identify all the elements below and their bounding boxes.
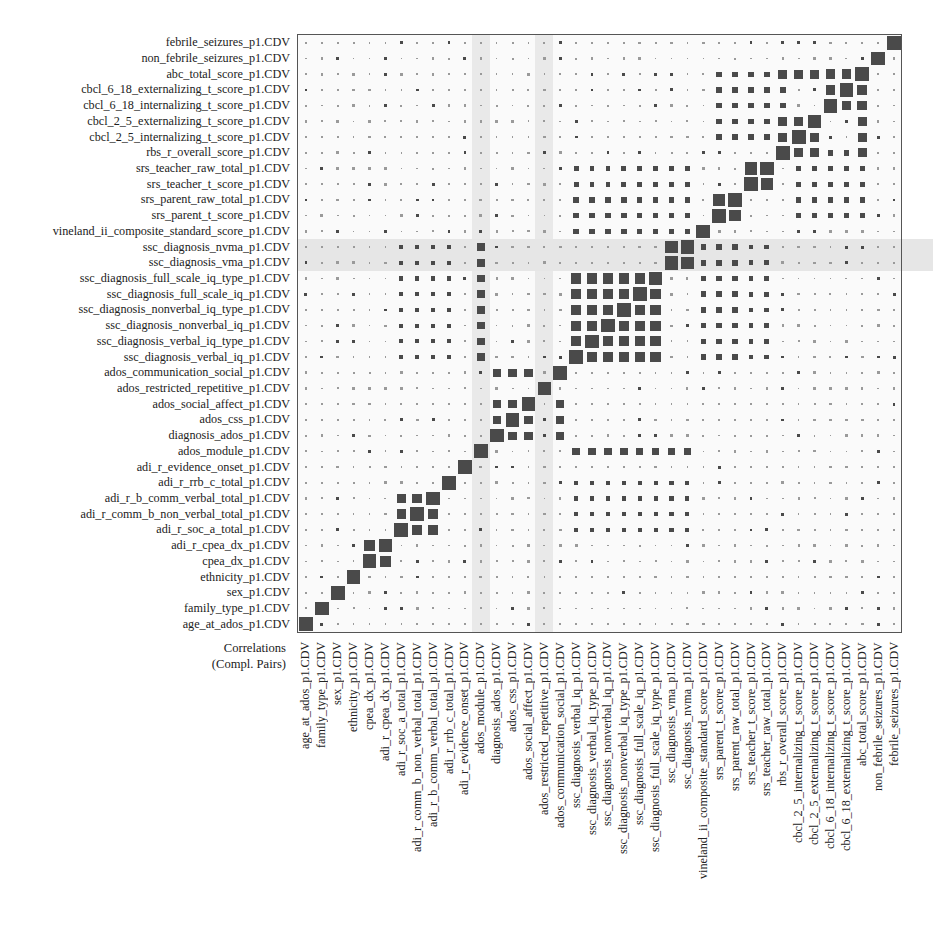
correlation-cell	[654, 419, 656, 421]
row-label: age_at_ados_p1.CDV	[183, 616, 290, 633]
correlation-cell	[544, 278, 546, 280]
correlation-cell	[477, 243, 485, 251]
correlation-cell	[829, 607, 831, 609]
correlation-cell	[559, 167, 562, 170]
row-label: adi_r_comm_b_non_verbal_total_p1.CDV	[80, 506, 290, 523]
correlation-cell	[732, 103, 737, 108]
correlation-cell	[511, 356, 513, 358]
correlation-cell	[432, 73, 434, 75]
correlation-cell	[432, 560, 434, 562]
correlation-cell	[685, 496, 689, 500]
correlation-cell	[670, 136, 672, 138]
correlation-cell	[601, 319, 615, 333]
correlation-cell	[669, 229, 674, 234]
correlation-cell	[574, 481, 578, 485]
correlation-cell	[639, 592, 641, 594]
correlation-cell	[654, 262, 657, 265]
correlation-cell	[716, 291, 721, 296]
correlation-cell	[829, 136, 832, 139]
correlation-cell	[826, 69, 836, 79]
correlation-cell	[798, 419, 800, 421]
column-label: srs_parent_t_score_p1.CDV	[711, 642, 728, 928]
correlation-cell	[750, 215, 752, 217]
correlation-cell	[829, 57, 831, 59]
correlation-cell	[493, 369, 501, 377]
correlation-cell	[464, 215, 466, 217]
correlation-cell	[639, 73, 641, 75]
correlation-cell	[305, 482, 307, 484]
correlation-cell	[543, 89, 545, 91]
correlation-cell	[432, 482, 434, 484]
correlation-cell	[845, 387, 848, 390]
correlation-cell	[480, 120, 482, 122]
correlation-cell	[511, 246, 513, 248]
correlation-cell	[477, 353, 485, 361]
correlation-cell	[464, 89, 466, 91]
correlation-cell	[368, 120, 370, 122]
correlation-cell	[385, 529, 387, 531]
correlation-cell	[464, 167, 466, 169]
correlation-cell	[670, 325, 672, 327]
correlation-cell	[734, 168, 736, 170]
correlation-cell	[432, 120, 434, 122]
correlation-cell	[716, 87, 721, 92]
correlation-cell	[556, 432, 564, 440]
correlation-cell	[766, 576, 768, 578]
correlation-cell	[877, 120, 879, 122]
correlation-cell	[765, 607, 768, 610]
correlation-cell	[778, 70, 787, 79]
correlation-cell	[797, 607, 800, 610]
correlation-cell	[671, 576, 673, 578]
correlation-cell	[782, 435, 784, 437]
correlation-cell	[702, 435, 704, 437]
correlation-cell	[655, 403, 657, 405]
correlation-cell	[623, 89, 625, 91]
correlation-cell	[829, 482, 831, 484]
correlation-cell	[480, 403, 482, 405]
correlation-cell	[782, 403, 784, 405]
correlation-cell	[432, 576, 434, 578]
correlation-cell	[814, 529, 816, 531]
correlation-cell	[685, 528, 689, 532]
correlation-cell	[353, 466, 355, 468]
row-label: vineland_ii_composite_standard_score_p1.…	[53, 223, 290, 240]
correlation-cell	[385, 89, 387, 91]
correlation-cell	[369, 608, 371, 610]
correlation-cell	[748, 103, 753, 108]
correlation-cell	[480, 560, 482, 562]
correlation-cell	[621, 213, 626, 218]
column-label: ssc_diagnosis_verbal_iq_type_p1.CDV	[584, 642, 601, 928]
correlation-cell	[607, 388, 609, 390]
correlation-cell	[671, 309, 673, 311]
correlation-cell	[431, 324, 435, 328]
correlation-cell	[732, 323, 737, 328]
correlation-cell	[780, 103, 785, 108]
correlation-cell	[702, 167, 704, 169]
correlation-cell	[416, 214, 419, 217]
correlation-cell	[575, 544, 578, 547]
correlation-cell	[796, 182, 801, 187]
correlation-cell	[385, 372, 387, 374]
row-label: cbcl_2_5_internalizing_t_score_p1.CDV	[89, 129, 290, 146]
correlation-cell	[671, 403, 673, 405]
correlation-cell	[464, 419, 466, 421]
correlation-cell	[416, 544, 418, 546]
correlation-cell	[477, 322, 485, 330]
row-label: family_type_p1.CDV	[184, 600, 290, 617]
correlation-cell	[559, 136, 561, 138]
correlation-cell	[877, 356, 880, 359]
correlation-cell	[813, 57, 816, 60]
correlation-cell	[528, 356, 530, 358]
correlation-cell	[734, 623, 736, 625]
row-label: cbcl_6_18_externalizing_t_score_p1.CDV	[81, 81, 290, 98]
correlation-cell	[543, 340, 545, 342]
correlation-cell	[384, 120, 386, 122]
correlation-cell	[321, 199, 323, 201]
correlation-cell	[337, 293, 339, 295]
correlation-cell	[621, 166, 626, 171]
correlation-cell	[861, 278, 863, 280]
correlation-cell	[556, 416, 564, 424]
correlation-cell	[718, 151, 721, 154]
column-label: adi_r_cpea_dx_p1.CDV	[377, 642, 394, 928]
correlation-cell	[655, 592, 657, 594]
